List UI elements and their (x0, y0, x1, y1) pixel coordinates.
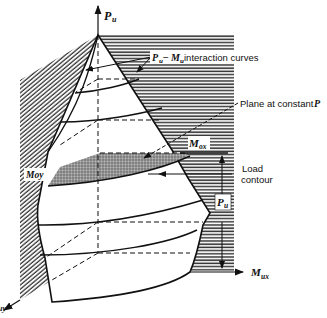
mux-axis-label: M ux (250, 266, 269, 281)
moy-label: Moy (24, 168, 46, 181)
pu-dimension-label: P u (215, 194, 231, 210)
svg-text:ox: ox (199, 142, 207, 151)
mox-label: M ox (188, 136, 210, 151)
interaction-surface-diagram: P u P u − M u interaction curves Plane a… (0, 0, 327, 318)
svg-text:interaction curves: interaction curves (184, 52, 259, 63)
muy-axis (4, 300, 20, 310)
svg-text:contour: contour (241, 174, 273, 185)
svg-text:u: u (224, 201, 228, 210)
svg-text:uy: uy (0, 304, 6, 313)
muy-axis-label: uy (0, 304, 6, 313)
svg-text:Moy: Moy (25, 170, 44, 180)
svg-text:ux: ux (261, 272, 269, 281)
svg-text:u: u (112, 15, 117, 24)
svg-text:Load: Load (242, 163, 263, 174)
svg-text:−: − (163, 52, 169, 63)
plane-constant-p-label: Plane at constant P (240, 98, 321, 109)
svg-text:P: P (152, 52, 159, 63)
svg-text:Plane at constant: Plane at constant (240, 98, 314, 109)
svg-text:P: P (104, 9, 112, 23)
load-contour-label: Load contour (241, 163, 273, 185)
interaction-curves-label: P u − M u interaction curves (150, 50, 259, 65)
svg-text:P: P (217, 196, 224, 208)
svg-text:P: P (314, 98, 321, 109)
pu-axis-label: P u (102, 8, 122, 24)
